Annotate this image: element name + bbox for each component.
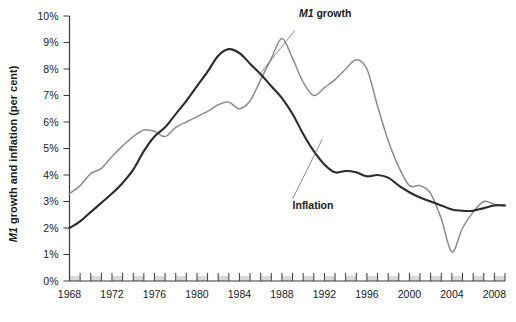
x-axis-band xyxy=(303,276,314,281)
x-axis-band xyxy=(239,276,250,281)
x-axis-band xyxy=(70,276,81,281)
x-axis-band xyxy=(324,276,335,281)
x-axis-band xyxy=(176,276,187,281)
x-axis-band xyxy=(431,276,442,281)
x-axis-band xyxy=(282,276,293,281)
x-tick-label: 1968 xyxy=(58,288,82,300)
x-tick-label: 1988 xyxy=(270,288,294,300)
y-tick-label: 8% xyxy=(43,63,58,75)
line-chart: 0%1%2%3%4%5%6%7%8%9%10% 1968197219761980… xyxy=(0,0,516,322)
x-axis-band xyxy=(91,276,102,281)
y-axis-title: M1 growth and inflation (per cent) xyxy=(7,65,19,242)
x-axis-band xyxy=(197,276,208,281)
x-tick-label: 1984 xyxy=(228,288,252,300)
chart-background xyxy=(0,0,516,322)
x-tick-label: 2004 xyxy=(440,288,464,300)
y-tick-label: 7% xyxy=(43,89,58,101)
x-axis-band xyxy=(473,276,484,281)
x-axis-band xyxy=(112,276,123,281)
x-axis-band xyxy=(261,276,272,281)
x-axis-band xyxy=(388,276,399,281)
x-tick-label: 1996 xyxy=(355,288,379,300)
x-tick-label: 1976 xyxy=(143,288,167,300)
x-tick-label: 2008 xyxy=(483,288,507,300)
y-tick-label: 6% xyxy=(43,116,58,128)
y-tick-label: 2% xyxy=(43,222,58,234)
y-tick-label: 9% xyxy=(43,36,58,48)
y-tick-label: 1% xyxy=(43,248,58,260)
x-tick-label: 2000 xyxy=(398,288,422,300)
y-tick-label: 0% xyxy=(43,275,58,287)
y-tick-label: 5% xyxy=(43,142,58,154)
x-axis-band xyxy=(346,276,357,281)
x-axis-band xyxy=(154,276,165,281)
x-tick-label: 1972 xyxy=(100,288,124,300)
x-axis-band xyxy=(133,276,144,281)
x-axis-band xyxy=(218,276,229,281)
m1-growth-label: M1 growth xyxy=(299,7,352,19)
x-axis-band xyxy=(494,276,505,281)
x-axis-band xyxy=(452,276,463,281)
y-tick-label: 4% xyxy=(43,169,58,181)
y-tick-label: 3% xyxy=(43,195,58,207)
x-axis-band xyxy=(409,276,420,281)
chart-container: 0%1%2%3%4%5%6%7%8%9%10% 1968197219761980… xyxy=(0,0,516,322)
inflation-label: Inflation xyxy=(293,199,334,211)
y-tick-label: 10% xyxy=(37,10,58,22)
x-axis-bands xyxy=(70,276,506,281)
x-axis-band xyxy=(367,276,378,281)
x-tick-label: 1980 xyxy=(185,288,209,300)
x-tick-label: 1992 xyxy=(313,288,337,300)
